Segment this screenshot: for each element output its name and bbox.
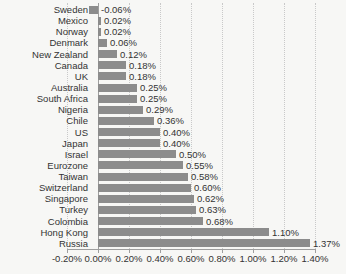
bar	[98, 128, 160, 136]
bar	[98, 184, 191, 192]
value-label: 0.60%	[194, 182, 221, 193]
category-label: Turkey	[0, 204, 88, 215]
bar	[98, 72, 126, 80]
x-axis-tick-label: 0.80%	[209, 253, 236, 264]
gridline	[315, 3, 316, 249]
bar	[98, 50, 117, 58]
x-axis-tick-label: 0.40%	[147, 253, 174, 264]
value-label: -0.06%	[101, 4, 131, 15]
value-label: 0.63%	[199, 204, 226, 215]
x-axis-tick-label: 0.00%	[85, 253, 112, 264]
value-label: 1.10%	[272, 227, 299, 238]
bar	[98, 195, 194, 203]
value-label: 0.18%	[129, 71, 156, 82]
bar	[98, 106, 143, 114]
category-label: New Zealand	[0, 49, 88, 60]
gridline	[284, 3, 285, 249]
value-label: 0.36%	[157, 115, 184, 126]
value-label: 0.25%	[140, 93, 167, 104]
category-label: Eurozone	[0, 160, 88, 171]
value-label: 0.40%	[163, 138, 190, 149]
bar-chart: -0.20%0.00%0.20%0.40%0.60%0.80%1.00%1.20…	[0, 0, 346, 274]
category-label: Mexico	[0, 15, 88, 26]
bar	[98, 84, 137, 92]
bar	[98, 61, 126, 69]
bar	[98, 117, 154, 125]
category-label: Norway	[0, 26, 88, 37]
value-label: 0.68%	[206, 216, 233, 227]
bar	[98, 39, 107, 47]
category-label: US	[0, 127, 88, 138]
value-label: 0.62%	[197, 193, 224, 204]
value-label: 0.50%	[179, 149, 206, 160]
category-label: Japan	[0, 138, 88, 149]
x-axis-line	[67, 249, 316, 250]
value-label: 0.29%	[146, 104, 173, 115]
value-label: 0.02%	[104, 15, 131, 26]
value-label: 0.40%	[163, 127, 190, 138]
x-axis-tick-label: 0.20%	[116, 253, 143, 264]
x-axis-tick-label: 1.00%	[240, 253, 267, 264]
category-label: Israel	[0, 149, 88, 160]
bar	[89, 6, 98, 14]
value-label: 0.12%	[120, 49, 147, 60]
x-axis-tick-label: -0.20%	[52, 253, 82, 264]
category-label: Australia	[0, 82, 88, 93]
x-axis-tick-label: 1.40%	[302, 253, 329, 264]
value-label: 0.02%	[104, 26, 131, 37]
category-label: Denmark	[0, 37, 88, 48]
bar	[98, 150, 176, 158]
bar	[98, 217, 203, 225]
gridline	[253, 3, 254, 249]
category-label: Sweden	[0, 4, 88, 15]
bar	[98, 17, 101, 25]
value-label: 0.06%	[110, 37, 137, 48]
category-label: Colombia	[0, 216, 88, 227]
bar	[98, 95, 137, 103]
bar	[98, 139, 160, 147]
bar	[98, 161, 183, 169]
category-label: South Africa	[0, 93, 88, 104]
category-label: Russia	[0, 238, 88, 249]
category-label: Switzerland	[0, 182, 88, 193]
bar	[98, 28, 101, 36]
x-axis-tick-label: 0.60%	[178, 253, 205, 264]
value-label: 0.58%	[191, 171, 218, 182]
category-label: Singapore	[0, 193, 88, 204]
value-label: 0.18%	[129, 60, 156, 71]
category-label: Nigeria	[0, 104, 88, 115]
bar	[98, 206, 196, 214]
bar	[98, 228, 269, 236]
category-label: Taiwan	[0, 171, 88, 182]
category-label: Chile	[0, 115, 88, 126]
value-label: 0.25%	[140, 82, 167, 93]
x-axis-tick-label: 1.20%	[271, 253, 298, 264]
bar	[98, 173, 188, 181]
value-label: 0.55%	[186, 160, 213, 171]
value-label: 1.37%	[313, 238, 340, 249]
category-label: UK	[0, 71, 88, 82]
bar	[98, 239, 310, 247]
category-label: Canada	[0, 60, 88, 71]
category-label: Hong Kong	[0, 227, 88, 238]
